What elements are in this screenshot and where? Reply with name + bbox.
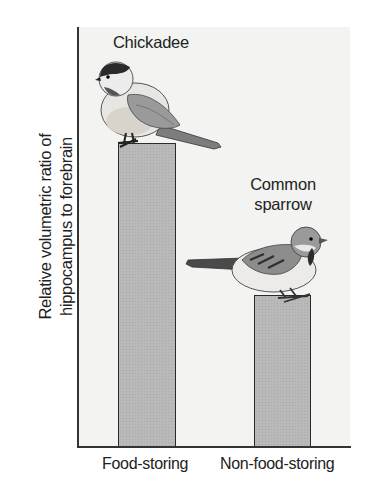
bar-non-food-storing [254,295,311,447]
y-axis-label: Relative volumetric ratio of hippocampus… [20,112,70,342]
x-axis-line [77,446,351,448]
annotation-chickadee: Chickadee [104,32,198,52]
chickadee-icon [90,55,230,155]
annotation-sparrow-line1: Common [240,174,326,194]
annotation-sparrow-line2: sparrow [240,194,326,214]
bar-food-storing [118,143,176,447]
x-tick-label-non-food-storing: Non-food-storing [220,455,334,473]
sparrow-icon [184,222,334,304]
x-tick-label-food-storing: Food-storing [102,455,188,473]
y-axis-label-line2: hippocampus to forebrain [56,112,77,342]
y-axis-line [77,27,79,448]
annotation-common-sparrow: Common sparrow [240,174,326,214]
y-axis-label-line1: Relative volumetric ratio of [35,112,56,342]
